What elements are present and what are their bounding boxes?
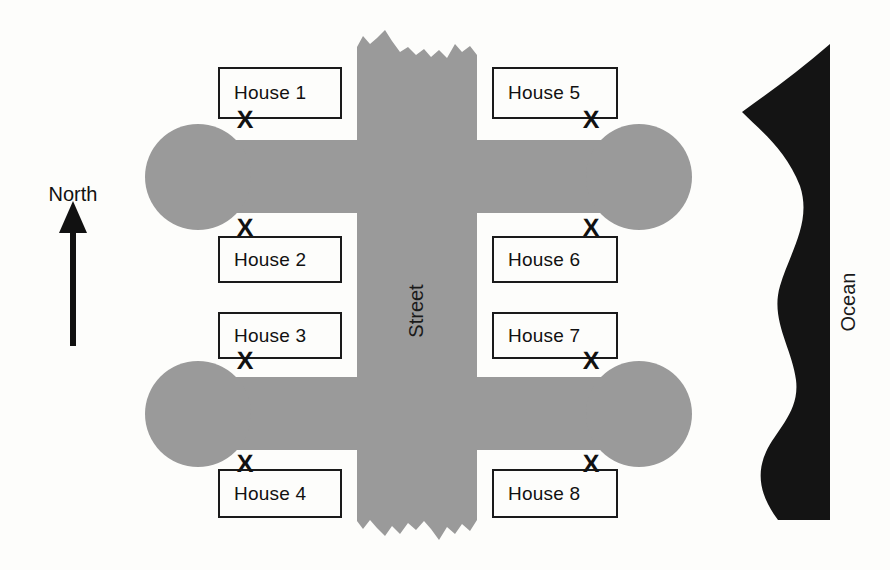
driveway-mark-house-6: X [583,216,600,241]
map-graphics-layer [0,0,890,570]
house-label-5: House 5 [508,82,580,104]
map-diagram: Street Ocean North House 1 House 2 House… [0,0,890,570]
house-box-2[interactable]: House 2 [218,236,342,283]
house-label-3: House 3 [234,325,306,347]
house-label-4: House 4 [234,483,306,505]
ocean-label: Ocean [837,273,860,332]
cul-de-sac-upper-west [145,124,251,230]
driveway-mark-house-2: X [237,216,254,241]
street-label: Street [405,284,428,337]
driveway-mark-house-8: X [583,452,600,477]
driveway-mark-house-4: X [237,452,254,477]
driveway-mark-house-3: X [237,349,254,374]
north-label: North [49,183,98,206]
house-label-7: House 7 [508,325,580,347]
cul-de-sac-upper-east [586,124,692,230]
house-label-8: House 8 [508,483,580,505]
house-label-2: House 2 [234,249,306,271]
cul-de-sac-lower-east [586,361,692,467]
ocean-shape [742,44,830,520]
house-label-6: House 6 [508,249,580,271]
driveway-mark-house-5: X [583,108,600,133]
driveway-mark-house-1: X [237,108,254,133]
house-label-1: House 1 [234,82,306,104]
cul-de-sac-lower-west [145,361,251,467]
driveway-mark-house-7: X [583,349,600,374]
house-box-6[interactable]: House 6 [492,236,618,283]
north-arrow-icon [59,201,87,346]
